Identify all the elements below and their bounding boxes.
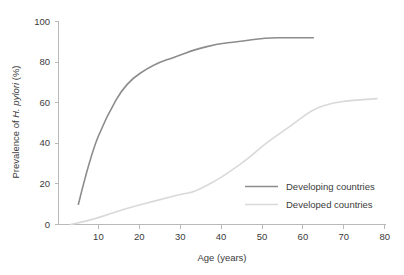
line-chart: 0 20 40 60 80 100 10 20 30 40 50 60 70 [0,0,404,275]
y-tick-label: 0 [45,219,50,230]
x-tick-label: 20 [134,231,145,242]
x-axis-tick-labels: 10 20 30 40 50 60 70 80 [93,231,390,242]
x-tick-label: 40 [216,231,227,242]
y-tick-label: 40 [39,137,50,148]
axis-lines [59,21,386,225]
legend-label-developing: Developing countries [286,181,375,192]
x-axis-title: Age (years) [197,252,246,263]
y-tick-label: 60 [39,97,50,108]
x-tick-label: 70 [339,231,350,242]
chart-figure: 0 20 40 60 80 100 10 20 30 40 50 60 70 [0,0,404,275]
y-axis-ticks [55,22,59,225]
x-tick-label: 30 [175,231,186,242]
x-axis-ticks [98,225,384,229]
y-axis-tick-labels: 0 20 40 60 80 100 [34,16,50,230]
y-tick-label: 100 [34,16,50,27]
y-tick-label: 20 [39,178,50,189]
y-axis-title-prefix: Prevalence of [10,118,21,179]
x-tick-label: 50 [257,231,268,242]
series-line-developing [78,38,313,204]
y-axis-title: Prevalence of H. pylori (%) [10,66,21,179]
y-axis-title-species: H. pylori [10,82,21,118]
x-tick-label: 80 [379,231,390,242]
x-tick-label: 60 [298,231,309,242]
chart-legend: Developing countries Developed countries [245,181,375,210]
x-tick-label: 10 [93,231,104,242]
legend-label-developed: Developed countries [286,199,373,210]
y-axis-title-suffix: (%) [10,66,21,83]
y-tick-label: 80 [39,56,50,67]
